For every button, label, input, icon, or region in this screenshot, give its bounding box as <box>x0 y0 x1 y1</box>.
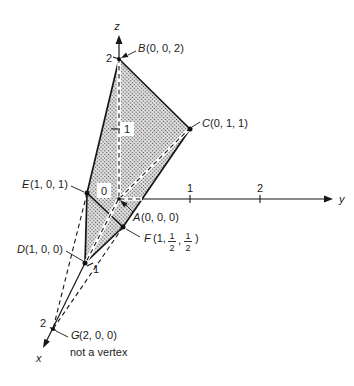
leader-b-arrow-icon <box>121 53 128 59</box>
leader-c <box>192 122 200 127</box>
point-a-coords: (0, 0, 0) <box>141 211 179 223</box>
point-d-coords: (1, 0, 0) <box>25 243 63 255</box>
point-label-g: G (2, 0, 0) not a vertex <box>70 329 128 358</box>
leader-e <box>71 186 84 192</box>
point-a-name: A <box>132 211 140 223</box>
point-e-coords: (1, 0, 1) <box>30 178 68 190</box>
point-f-frac1-den: 2 <box>169 243 174 253</box>
point-label-b: B (0, 0, 2) <box>138 42 184 54</box>
vertex-c-dot <box>188 127 193 132</box>
point-label-e: E (1, 0, 1) <box>22 178 68 190</box>
point-g-note: not a vertex <box>70 346 128 358</box>
point-c-name: C <box>202 117 210 129</box>
point-f-frac1-num: 1 <box>169 231 174 241</box>
z-tick-1-label: 1 <box>124 123 130 135</box>
point-c-coords: (0, 1, 1) <box>210 117 248 129</box>
vertex-d-dot <box>83 261 88 266</box>
x-tick-1-label: 1 <box>93 263 99 275</box>
point-f-frac2-num: 1 <box>185 231 190 241</box>
point-label-c: C (0, 1, 1) <box>202 117 248 129</box>
x-tick-2-label: 2 <box>40 317 46 329</box>
x-axis-label: x <box>35 352 42 364</box>
vertex-f-dot <box>121 225 126 230</box>
polyhedron-diagram: z 2 1 1 2 y 0 1 2 x B (0, 0, 2) C (0, 1,… <box>0 0 354 386</box>
vertex-e-dot <box>85 191 90 196</box>
point-f-name: F <box>144 232 152 244</box>
extension-e-g <box>53 193 87 329</box>
point-b-name: B <box>138 42 145 54</box>
point-label-f: F (1, 1 2 , 1 2 ) <box>144 231 199 253</box>
leader-f <box>126 229 140 237</box>
figure-canvas: z 2 1 1 2 y 0 1 2 x B (0, 0, 2) C (0, 1,… <box>0 0 354 386</box>
point-g-coords: (2, 0, 0) <box>79 329 117 341</box>
leader-g <box>56 331 68 337</box>
point-label-a: A (0, 0, 0) <box>132 211 179 223</box>
y-tick-1-label: 1 <box>187 182 193 194</box>
vertex-b-dot <box>117 57 121 61</box>
y-tick-2-label: 2 <box>257 182 263 194</box>
z-axis-label: z <box>113 20 120 32</box>
point-f-close: ) <box>195 232 199 244</box>
point-f-open: (1, <box>153 232 166 244</box>
origin-label: 0 <box>101 185 107 197</box>
point-label-d: D (1, 0, 0) <box>17 243 63 255</box>
point-f-frac2-den: 2 <box>185 243 190 253</box>
point-b-coords: (0, 0, 2) <box>146 42 184 54</box>
point-e-name: E <box>22 178 30 190</box>
z-axis-arrow-icon <box>116 35 123 44</box>
point-d-name: D <box>17 243 25 255</box>
leader-b <box>128 51 136 55</box>
leader-d <box>66 251 83 261</box>
x-axis-arrow-icon <box>43 339 50 348</box>
y-axis-arrow-icon <box>324 196 333 203</box>
z-tick-2-label: 2 <box>106 52 112 64</box>
origin-a-dot <box>117 197 121 201</box>
point-f-comma: , <box>178 234 181 246</box>
point-g-dot <box>51 327 55 331</box>
y-axis-label: y <box>338 193 346 205</box>
